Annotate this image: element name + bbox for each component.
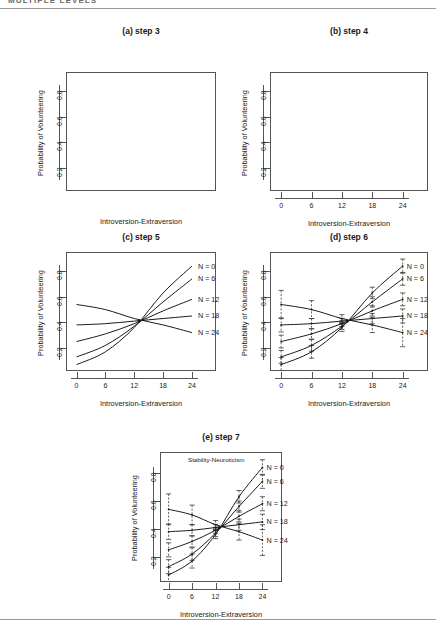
x-axis-label-b: Introversion-Extraversion xyxy=(230,219,436,228)
legend-label-c-3: N = 18 xyxy=(198,311,219,320)
x-tick-e-4 xyxy=(262,583,263,590)
legend-label-d-0: N = 0 xyxy=(407,262,424,271)
legend-label-d-3: N = 18 xyxy=(407,311,428,320)
y-tick-label-a-0: 0.2 xyxy=(56,167,63,177)
series-overlay-c xyxy=(66,252,216,371)
header-rule xyxy=(0,8,436,9)
x-tick-e-1 xyxy=(192,583,193,590)
legend-label-c-2: N = 12 xyxy=(198,295,219,304)
x-tick-b-3 xyxy=(372,192,373,199)
x-tick-label-c-1: 6 xyxy=(91,382,119,389)
x-tick-label-d-2: 12 xyxy=(328,382,356,389)
y-tick-label-b-1: 0.4 xyxy=(260,142,267,152)
legend-label-d-4: N = 24 xyxy=(407,328,428,337)
panel-d: (d) step 60.20.40.60.8Probability of Vol… xyxy=(222,232,436,417)
panel-c: (c) step 50.20.40.60.8Probability of Vol… xyxy=(8,232,226,417)
x-tick-b-4 xyxy=(403,192,404,199)
panel-a: (a) step 30.20.40.60.8Probability of Vol… xyxy=(8,26,226,237)
x-tick-d-4 xyxy=(403,372,404,379)
y-tick-label-c-1: 0.4 xyxy=(56,322,63,332)
x-tick-label-d-1: 6 xyxy=(298,382,326,389)
y-tick-label-d-1: 0.4 xyxy=(260,322,267,332)
x-tick-label-c-4: 24 xyxy=(178,382,206,389)
series-line-c-0 xyxy=(77,266,192,365)
x-tick-c-3 xyxy=(163,372,164,379)
x-tick-d-0 xyxy=(281,372,282,379)
x-tick-c-1 xyxy=(105,372,106,379)
series-overlay-e xyxy=(160,452,282,582)
panel-title-b: (b) step 4 xyxy=(220,26,436,36)
legend-label-e-2: N = 12 xyxy=(266,499,287,508)
x-tick-label-c-3: 18 xyxy=(149,382,177,389)
x-tick-c-2 xyxy=(134,372,135,379)
y-axis-label-b: Probability of Volunteering xyxy=(240,90,249,176)
y-tick-label-e-2: 0.6 xyxy=(150,500,157,510)
x-tick-label-d-3: 18 xyxy=(358,382,386,389)
y-tick-label-b-2: 0.6 xyxy=(260,116,267,126)
x-tick-label-e-4: 24 xyxy=(248,593,276,600)
y-axis-label-c: Probability of Volunteering xyxy=(36,270,45,356)
legend-label-e-3: N = 18 xyxy=(266,517,287,526)
x-tick-label-d-0: 0 xyxy=(267,382,295,389)
y-tick-label-c-0: 0.2 xyxy=(56,347,63,357)
y-tick-label-d-3: 0.8 xyxy=(260,270,267,280)
legend-label-d-1: N = 6 xyxy=(407,274,424,283)
x-tick-label-b-0: 0 xyxy=(267,202,295,209)
moderator-annotation-e: Stability-Neuroticism xyxy=(188,456,244,463)
running-head: MULTIPLE LEVELS xyxy=(8,0,97,5)
x-tick-e-0 xyxy=(169,583,170,590)
x-tick-c-0 xyxy=(77,372,78,379)
y-tick-label-b-0: 0.2 xyxy=(260,167,267,177)
x-axis-label-e: Introversion-Extraversion xyxy=(120,610,322,619)
x-tick-d-1 xyxy=(312,372,313,379)
crossover-point-d xyxy=(345,319,348,322)
legend-label-d-2: N = 12 xyxy=(407,295,428,304)
x-tick-label-b-1: 6 xyxy=(298,202,326,209)
y-axis-label-e: Probability of Volunteering xyxy=(130,475,139,561)
plot-area-b xyxy=(270,72,428,191)
x-tick-label-b-2: 12 xyxy=(328,202,356,209)
x-tick-label-c-0: 0 xyxy=(63,382,91,389)
panel-b: (b) step 40.20.40.60.8Probability of Vol… xyxy=(222,26,436,237)
series-overlay-d xyxy=(270,252,428,371)
y-tick-label-a-1: 0.4 xyxy=(56,142,63,152)
y-tick-label-a-2: 0.6 xyxy=(56,116,63,126)
y-axis-label-d: Probability of Volunteering xyxy=(240,270,249,356)
x-tick-c-4 xyxy=(192,372,193,379)
y-tick-label-e-3: 0.8 xyxy=(150,472,157,482)
x-tick-b-1 xyxy=(312,192,313,199)
panel-title-d: (d) step 6 xyxy=(220,232,436,242)
x-tick-b-2 xyxy=(342,192,343,199)
x-tick-label-b-4: 24 xyxy=(389,202,417,209)
x-tick-label-b-3: 18 xyxy=(358,202,386,209)
legend-label-e-1: N = 6 xyxy=(266,477,283,486)
panel-title-e: (e) step 7 xyxy=(110,432,332,442)
x-tick-d-3 xyxy=(372,372,373,379)
y-tick-label-b-3: 0.8 xyxy=(260,90,267,100)
legend-label-c-4: N = 24 xyxy=(198,328,219,337)
panel-e: (e) step 70.20.40.60.8Probability of Vol… xyxy=(112,432,292,628)
y-tick-label-c-3: 0.8 xyxy=(56,270,63,280)
x-tick-label-c-2: 12 xyxy=(120,382,148,389)
series-line-c-2 xyxy=(77,299,192,341)
legend-label-e-0: N = 0 xyxy=(266,463,283,472)
figure-page: MULTIPLE LEVELS (a) step 30.20.40.60.8Pr… xyxy=(0,0,436,628)
x-axis-label-d: Introversion-Extraversion xyxy=(230,399,436,408)
y-axis-label-a: Probability of Volunteering xyxy=(36,90,45,176)
series-line-c-4 xyxy=(77,304,192,332)
y-tick-label-c-2: 0.6 xyxy=(56,296,63,306)
crossover-point-c xyxy=(137,319,140,322)
legend-label-e-4: N = 24 xyxy=(266,536,287,545)
y-tick-label-e-0: 0.2 xyxy=(150,556,157,566)
x-tick-b-0 xyxy=(281,192,282,199)
plot-area-a xyxy=(66,72,216,191)
y-tick-label-a-3: 0.8 xyxy=(56,90,63,100)
crossover-point-e xyxy=(218,526,221,529)
x-tick-e-3 xyxy=(239,583,240,590)
legend-label-c-0: N = 0 xyxy=(198,262,215,271)
y-tick-label-d-2: 0.6 xyxy=(260,296,267,306)
legend-label-c-1: N = 6 xyxy=(198,274,215,283)
x-tick-e-2 xyxy=(216,583,217,590)
y-axis-line-e xyxy=(153,467,154,569)
x-tick-d-2 xyxy=(342,372,343,379)
